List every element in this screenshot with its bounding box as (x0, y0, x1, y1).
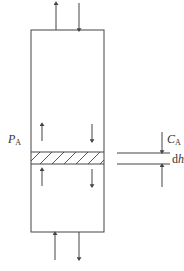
pressure-label: PA (7, 132, 21, 147)
dh-dimension (117, 132, 170, 187)
thickness-label: dh (172, 152, 184, 166)
concentration-label: CA (167, 132, 181, 147)
differential-element (31, 152, 104, 164)
column-diagram: PA CA dh (0, 0, 184, 271)
